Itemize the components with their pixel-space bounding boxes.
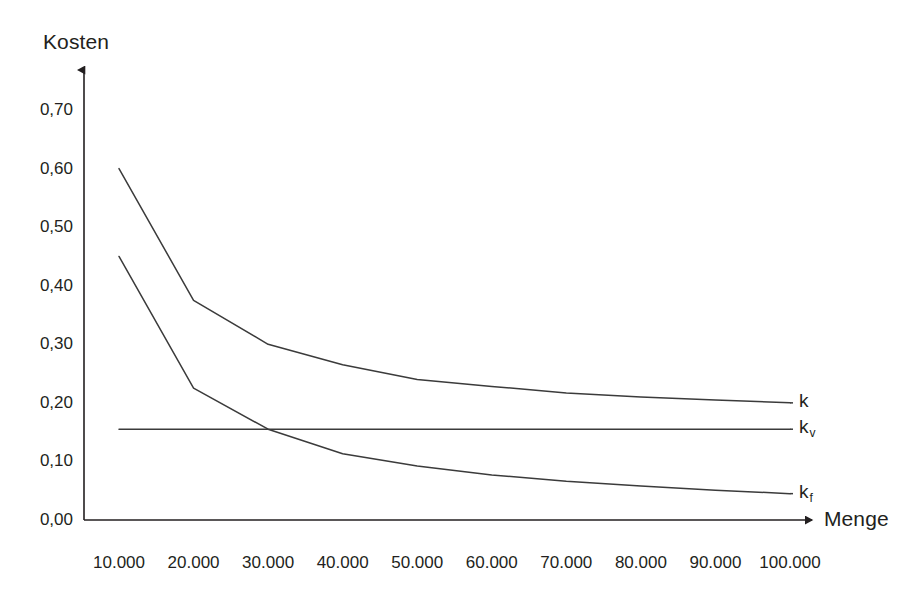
series-label-base: k <box>799 390 809 411</box>
y-tick-label: 0,50 <box>13 217 73 237</box>
y-tick-label: 0,40 <box>13 276 73 296</box>
y-tick-label: 0,70 <box>13 100 73 120</box>
cost-curve-chart: Kosten Menge 0,000,100,200,300,400,500,6… <box>0 0 923 590</box>
series-label-subscript: f <box>810 491 813 505</box>
series-label-base: k <box>799 416 809 437</box>
plot-area <box>0 0 923 590</box>
y-tick-label: 0,10 <box>13 451 73 471</box>
y-tick-label: 0,20 <box>13 393 73 413</box>
series-label-k_v: kv <box>799 416 815 438</box>
y-axis-title: Kosten <box>43 30 109 54</box>
series-label-k: k <box>799 390 809 412</box>
series-label-base: k <box>799 481 809 502</box>
axis-lines <box>84 70 812 520</box>
series-label-subscript: v <box>810 426 816 440</box>
y-tick-label: 0,60 <box>13 159 73 179</box>
series-leader-lines <box>790 403 793 494</box>
series-label-k_f: kf <box>799 481 812 503</box>
x-axis-title: Menge <box>824 507 889 531</box>
series-line-k <box>119 169 790 403</box>
series-line-k_f <box>119 256 790 493</box>
series-lines <box>119 169 790 494</box>
x-tick-label: 100.000 <box>745 553 835 573</box>
y-tick-label: 0,00 <box>13 510 73 530</box>
y-tick-label: 0,30 <box>13 334 73 354</box>
